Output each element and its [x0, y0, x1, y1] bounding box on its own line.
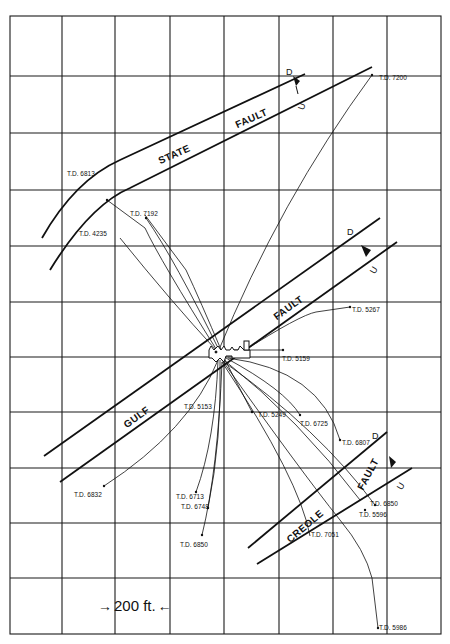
well-label-6748: T.D. 6748 [181, 504, 209, 511]
scale-label: 200 ft. [114, 597, 156, 614]
well-label-5986: T.D. 5986 [379, 625, 407, 632]
well-label-5249: T.D. 5249 [258, 412, 286, 419]
well-label-6850-a: T.D. 6850 [180, 542, 208, 549]
arrow-right-icon: → [98, 598, 112, 614]
state-fault-lines [42, 67, 372, 270]
well-label-7200: T.D. 7200 [379, 75, 407, 82]
well-label-6832: T.D. 6832 [74, 492, 102, 499]
well-label-7051: T.D. 7051 [311, 532, 339, 539]
scale-bar: → 200 ft. ← [98, 597, 172, 614]
well-label-7192: T.D. 7192 [130, 211, 158, 218]
state-fault-down: D [286, 68, 293, 77]
well-label-4235: T.D. 4235 [79, 231, 107, 238]
well-label-5153: T.D. 5153 [184, 404, 212, 411]
well-label-6807: T.D. 6807 [342, 440, 370, 447]
well-plat-map [0, 0, 450, 644]
grid [10, 16, 441, 634]
well-label-6725: T.D. 6725 [300, 421, 328, 428]
well-label-6813: T.D. 6813 [67, 171, 95, 178]
up-arrow-icons [293, 76, 396, 468]
well-label-5267: T.D. 5267 [352, 307, 380, 314]
arrow-left-icon: ← [158, 598, 172, 614]
drilling-platform [209, 341, 250, 362]
well-label-6850-b: T.D. 6850 [370, 501, 398, 508]
well-label-5159: T.D. 5159 [282, 356, 310, 363]
well-label-6713: T.D. 6713 [176, 494, 204, 501]
creole-fault-down: D [372, 432, 379, 441]
gulf-fault-down: D [347, 228, 354, 237]
well-label-5596: T.D. 5596 [359, 512, 387, 519]
